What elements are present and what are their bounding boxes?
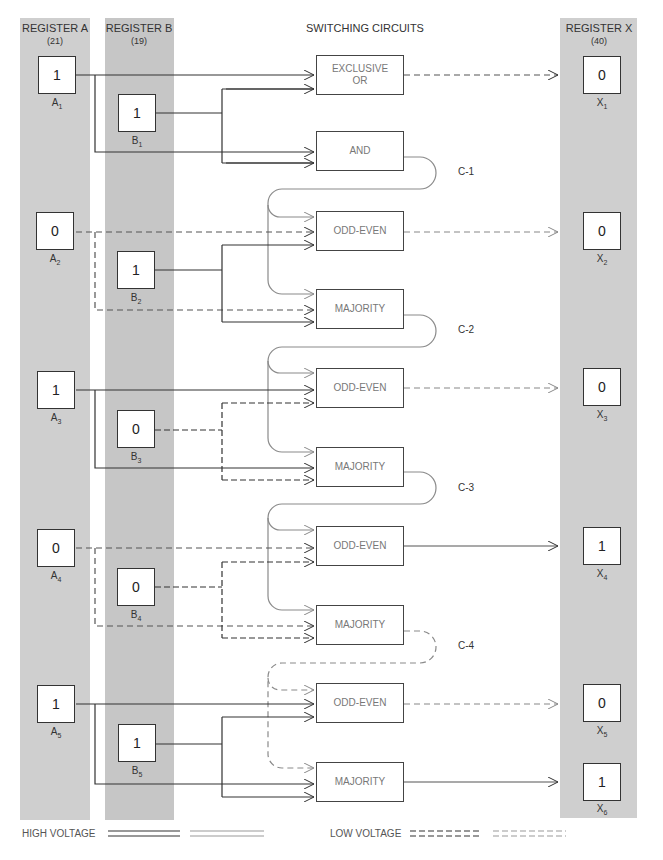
gate-majority-4: MAJORITY (316, 762, 404, 802)
register-x-label-6: X6 (587, 803, 617, 816)
register-a-label-5: A5 (41, 726, 71, 739)
register-a-bit-2: 0 (36, 212, 74, 250)
register-x-bit-5: 0 (583, 684, 621, 722)
legend-low-voltage: LOW VOLTAGE (330, 828, 401, 839)
carry-label-c4: C-4 (458, 640, 474, 651)
register-b-label-3: B3 (121, 451, 151, 464)
register-x-label-5: X5 (587, 725, 617, 738)
gate-majority-2: MAJORITY (316, 447, 404, 487)
gate-odd-even-4: ODD-EVEN (316, 683, 404, 723)
register-a-label-1: A1 (42, 97, 72, 110)
gate-majority-1: MAJORITY (316, 289, 404, 329)
gate-odd-even-2: ODD-EVEN (316, 368, 404, 408)
wiring-diagram (0, 0, 663, 860)
register-b-label-5: B5 (122, 765, 152, 778)
register-b-label-2: B2 (121, 292, 151, 305)
register-a-label-3: A3 (41, 412, 71, 425)
register-b-label-4: B4 (121, 609, 151, 622)
gate-and: AND (316, 131, 404, 171)
gate-odd-even-1: ODD-EVEN (316, 211, 404, 251)
register-a-bit-3: 1 (37, 371, 75, 409)
gate-exclusive-or: EXCLUSIVE OR (316, 55, 404, 95)
legend-high-voltage: HIGH VOLTAGE (22, 828, 96, 839)
register-x-label-4: X4 (587, 568, 617, 581)
register-x-bit-1: 0 (583, 56, 621, 94)
register-a-bit-5: 1 (37, 685, 75, 723)
register-a-label-2: A2 (40, 253, 70, 266)
register-b-bit-3: 0 (117, 410, 155, 448)
register-x-label-2: X2 (587, 253, 617, 266)
register-b-bit-1: 1 (118, 94, 156, 132)
gate-majority-3: MAJORITY (316, 605, 404, 645)
register-a-bit-1: 1 (38, 56, 76, 94)
register-x-bit-4: 1 (583, 527, 621, 565)
carry-label-c2: C-2 (458, 324, 474, 335)
gate-odd-even-3: ODD-EVEN (316, 526, 404, 566)
carry-label-c1: C-1 (458, 166, 474, 177)
register-b-bit-4: 0 (117, 568, 155, 606)
register-x-bit-3: 0 (583, 368, 621, 406)
register-b-bit-5: 1 (118, 724, 156, 762)
register-a-bit-4: 0 (37, 529, 75, 567)
register-b-bit-2: 1 (117, 251, 155, 289)
carry-label-c3: C-3 (458, 482, 474, 493)
register-x-label-3: X3 (587, 409, 617, 422)
register-a-label-4: A4 (41, 570, 71, 583)
register-x-bit-2: 0 (583, 212, 621, 250)
register-b-label-1: B1 (122, 135, 152, 148)
register-x-label-1: X1 (587, 97, 617, 110)
register-x-bit-6: 1 (583, 763, 621, 801)
